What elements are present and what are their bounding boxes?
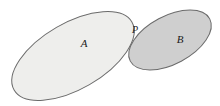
venn-diagram-svg: A B P [0,0,220,106]
ellipse-a [0,0,148,106]
figure-canvas: A B P [0,0,220,106]
ellipse-b [119,0,220,82]
tangent-point-label: P [131,24,138,35]
ellipse-a-label: A [80,37,88,49]
ellipse-b-label: B [177,33,184,45]
